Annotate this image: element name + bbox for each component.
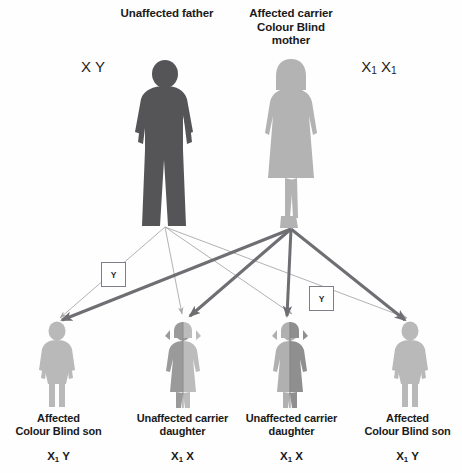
mother-genotype: X1 X1 — [340, 58, 418, 77]
mother-silhouette-icon — [265, 59, 317, 228]
child-2-genotype: X1 X — [124, 450, 241, 464]
gamete-box-y-right: Y — [309, 286, 334, 311]
child-1-silhouette-icon — [39, 322, 75, 408]
child-3-label: Unaffected carrier daughter — [233, 412, 350, 438]
inheritance-diagram: Unaffected father Affected carrier Colou… — [0, 0, 462, 473]
father-genotype: X Y — [62, 58, 124, 76]
child-1-label: Affected Colour Blind son — [2, 412, 115, 438]
child-1-genotype: X1 Y — [2, 450, 115, 464]
father-label: Unaffected father — [108, 7, 226, 21]
mother-label: Affected carrier Colour Blind mother — [231, 7, 351, 48]
child-3-silhouette-icon — [272, 322, 308, 408]
child-4-silhouette-icon — [392, 322, 428, 408]
child-2-silhouette-icon — [165, 322, 201, 408]
child-4-genotype: X1 Y — [353, 450, 462, 464]
father-silhouette-icon — [135, 60, 193, 226]
child-2-label: Unaffected carrier daughter — [124, 412, 241, 438]
child-4-label: Affected Colour Blind son — [353, 412, 462, 438]
child-3-genotype: X1 X — [233, 450, 350, 464]
gamete-box-y-left: Y — [101, 262, 126, 287]
